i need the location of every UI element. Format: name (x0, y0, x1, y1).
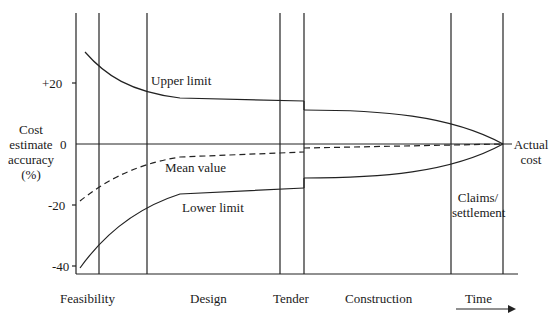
lower-limit-label: Lower limit (182, 200, 244, 215)
tick-label: 0 (60, 137, 67, 152)
mean-value-label: Mean value (165, 160, 226, 175)
arrow-head-icon (508, 305, 516, 313)
tick-label: -40 (52, 259, 69, 274)
cost-accuracy-diagram (0, 0, 557, 324)
phase-design: Design (190, 291, 227, 306)
claims-label: Claims/ settlement (452, 190, 504, 220)
time-label: Time (465, 291, 492, 306)
y-axis-label: Cost estimate accuracy (%) (2, 122, 60, 182)
tick-label: -20 (48, 198, 65, 213)
tick-label: +20 (42, 76, 62, 91)
actual-cost-label: Actual cost (506, 137, 556, 167)
phase-tender: Tender (273, 291, 309, 306)
phase-construction: Construction (345, 291, 412, 306)
upper-limit-label: Upper limit (151, 73, 211, 88)
phase-feasibility: Feasibility (60, 291, 115, 306)
mean-value-curve (80, 144, 503, 201)
